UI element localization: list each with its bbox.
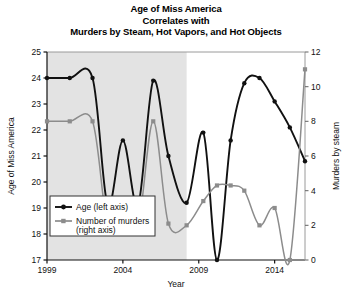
- ytick-label-left: 17: [32, 255, 42, 265]
- legend-marker-murders: [61, 219, 65, 223]
- yaxis-title-left: Age of Miss America: [6, 117, 16, 195]
- ytick-label-right: 4: [311, 186, 316, 196]
- data-point: [184, 201, 188, 205]
- data-point: [228, 138, 232, 142]
- ytick-label-right: 2: [311, 220, 316, 230]
- xtick-label: 2009: [189, 265, 208, 275]
- xtick-label: 1999: [38, 265, 57, 275]
- data-point: [242, 189, 246, 193]
- xtick-label: 2014: [265, 265, 284, 275]
- data-point: [121, 138, 125, 142]
- data-point: [201, 199, 205, 203]
- chart-plot: 1718192021222324250246810121999200420092…: [0, 0, 352, 294]
- data-point: [90, 76, 94, 80]
- ytick-label-right: 6: [311, 151, 316, 161]
- ytick-label-left: 19: [32, 203, 42, 213]
- data-point: [151, 78, 155, 82]
- data-point: [229, 183, 233, 187]
- ytick-label-right: 10: [311, 82, 321, 92]
- data-point: [90, 119, 94, 123]
- data-point: [45, 119, 49, 123]
- data-point: [273, 206, 277, 210]
- data-point: [45, 76, 49, 80]
- data-point: [242, 81, 246, 85]
- data-point: [185, 223, 189, 227]
- ytick-label-right: 8: [311, 116, 316, 126]
- data-point: [288, 125, 292, 129]
- data-point: [166, 154, 170, 158]
- ytick-label-right: 12: [311, 47, 321, 57]
- data-point: [215, 258, 219, 262]
- xaxis-title: Year: [167, 279, 184, 289]
- ytick-label-left: 20: [32, 177, 42, 187]
- data-point: [166, 222, 170, 226]
- data-point: [151, 119, 155, 123]
- xtick-label: 2004: [113, 265, 132, 275]
- data-point: [68, 119, 72, 123]
- data-point: [257, 223, 261, 227]
- ytick-label-left: 22: [32, 125, 42, 135]
- ytick-label-left: 21: [32, 151, 42, 161]
- data-point: [257, 76, 261, 80]
- legend-marker-age: [61, 205, 66, 210]
- data-point: [272, 99, 276, 103]
- legend-label-murders-2: (right axis): [76, 225, 116, 235]
- chart-container: Age of Miss America Correlates with Murd…: [0, 0, 352, 294]
- ytick-label-left: 18: [32, 229, 42, 239]
- ytick-label-right: 0: [311, 255, 316, 265]
- chart-legend[interactable]: Age (left axis)Number of murders(right a…: [50, 196, 155, 236]
- ytick-label-left: 25: [32, 47, 42, 57]
- data-point: [303, 159, 307, 163]
- yaxis-title-right: Murders by steam: [331, 122, 341, 190]
- data-point: [288, 258, 292, 262]
- data-point: [303, 67, 307, 71]
- ytick-label-left: 24: [32, 73, 42, 83]
- data-point: [68, 76, 72, 80]
- data-point: [215, 183, 219, 187]
- ytick-label-left: 23: [32, 99, 42, 109]
- data-point: [201, 130, 205, 134]
- legend-label-age: Age (left axis): [76, 202, 128, 212]
